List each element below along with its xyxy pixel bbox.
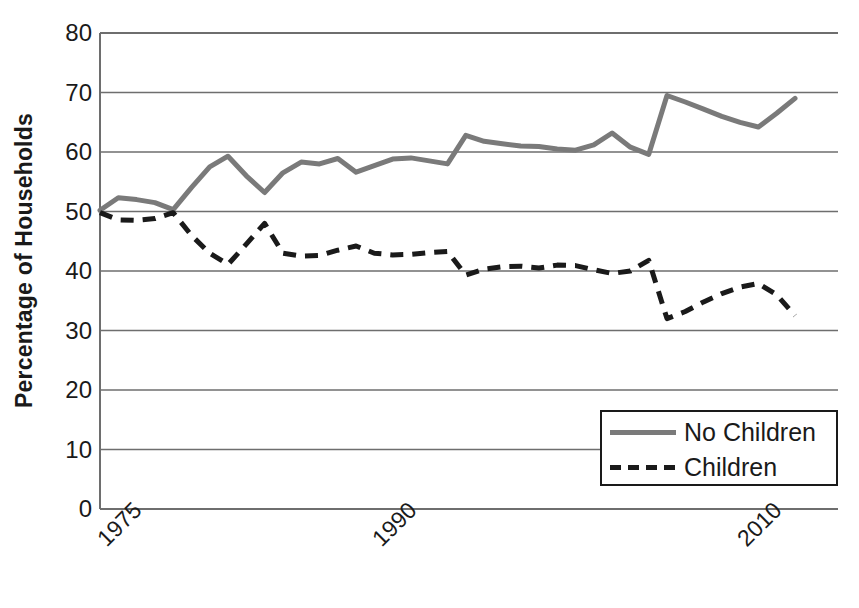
legend-label: Children — [684, 453, 777, 482]
chart-container: Percentage of Households 80 70 60 50 40 … — [0, 0, 859, 608]
legend: No Children Children — [600, 410, 838, 486]
legend-swatch-solid-line-icon — [610, 423, 676, 441]
legend-item-children: Children — [610, 450, 777, 484]
series-line-children — [100, 213, 795, 319]
legend-swatch-dashed-line-icon — [610, 458, 676, 476]
series-line-no-children — [100, 96, 795, 211]
legend-label: No Children — [684, 418, 816, 447]
legend-item-no-children: No Children — [610, 415, 816, 449]
